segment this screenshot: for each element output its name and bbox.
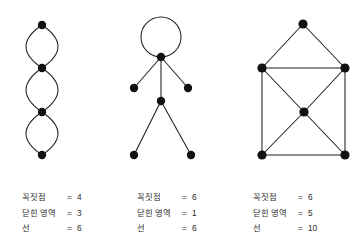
graph-edge [262,24,303,68]
caption-row-lines: 선 = 10 [253,221,317,237]
label-regions-term: 닫힌 영역 [22,206,67,222]
graph-edge-arc [42,25,58,68]
label-lines-value: 6 [192,221,197,237]
label-equals-sign: = [67,206,77,222]
caption-row-regions: 닫힌 영역 = 5 [253,206,317,222]
label-equals-sign: = [298,221,308,237]
graph-vertex-dot [38,64,46,72]
label-vertices-term: 꼭짓점 [137,190,182,206]
graph-edge [262,68,304,112]
label-equals-sign: = [298,190,308,206]
house-graph-with-center-vertex [257,19,349,159]
label-lines-term: 선 [253,221,298,237]
graph-vertex-dot [38,21,46,29]
caption-block-2: 꼭짓점 = 6 닫힌 영역 = 1 선 = 6 [137,190,197,237]
caption-row-regions: 닫힌 영역 = 1 [137,206,197,222]
caption-block-1: 꼭짓점 = 4 닫힌 영역 = 3 선 = 6 [22,190,82,237]
graph-edge-arc [26,112,42,155]
label-vertices-term: 꼭짓점 [253,190,298,206]
graph-vertex-dot [340,63,349,72]
graph-edge-arc [42,112,58,155]
caption-row-regions: 닫힌 영역 = 3 [22,206,82,222]
graph-vertex-dot [130,151,138,159]
label-equals-sign: = [182,206,192,222]
label-regions-term: 닫힌 영역 [137,206,182,222]
graph-edge [262,112,304,155]
label-equals-sign: = [67,190,77,206]
graph-vertex-dot [257,150,266,159]
figure-root: 꼭짓점 = 4 닫힌 영역 = 3 선 = 6 꼭짓점 = 6 닫힌 영역 = … [0,0,364,252]
graph-edge-self-loop [141,17,181,57]
graph-edge-arc [42,68,58,112]
label-lines-term: 선 [137,221,182,237]
graph-edge-arc [26,25,42,68]
label-vertices-value: 4 [77,190,82,206]
label-lines-value: 10 [308,221,317,237]
label-lines-term: 선 [22,221,67,237]
caption-row-lines: 선 = 6 [22,221,82,237]
graph-vertex-dot [340,150,349,159]
graph-vertex-dot [38,108,46,116]
graph-edge [134,57,161,88]
graph-edge-arc [26,68,42,112]
label-regions-term: 닫힌 영역 [253,206,298,222]
label-lines-value: 6 [77,221,82,237]
graph-edge [161,101,191,155]
label-equals-sign: = [298,206,308,222]
caption-row-vertices: 꼭짓점 = 6 [137,190,197,206]
graph-edge [134,101,161,155]
stick-figure-graph [130,17,195,159]
label-equals-sign: = [67,221,77,237]
caption-row-vertices: 꼭짓점 = 4 [22,190,82,206]
label-regions-value: 1 [192,206,197,222]
graph-vertex-dot [187,151,195,159]
label-vertices-value: 6 [192,190,197,206]
graph-vertex-dot [130,84,138,92]
label-vertices-value: 6 [308,190,313,206]
graph-vertex-dot [157,97,165,105]
graph-vertex-dot [157,53,165,61]
graph-vertex-dot [257,63,266,72]
label-vertices-term: 꼭짓점 [22,190,67,206]
chain-of-three-lenses-graph [26,21,58,159]
graph-vertex-dot [298,19,307,28]
label-equals-sign: = [182,221,192,237]
label-regions-value: 5 [308,206,313,222]
graph-vertex-dot [38,151,46,159]
label-regions-value: 3 [77,206,82,222]
graph-edge [303,24,345,68]
graph-vertex-dot [299,107,308,116]
graph-vertex-dot [184,84,192,92]
caption-row-lines: 선 = 6 [137,221,197,237]
caption-block-3: 꼭짓점 = 6 닫힌 영역 = 5 선 = 10 [253,190,317,237]
label-equals-sign: = [182,190,192,206]
caption-row-vertices: 꼭짓점 = 6 [253,190,317,206]
graph-edge [161,57,188,88]
graph-edge [304,112,345,155]
graph-edge [304,68,345,112]
